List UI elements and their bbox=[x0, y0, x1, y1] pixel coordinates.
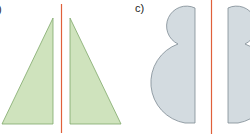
right-half-snowman bbox=[228, 6, 250, 123]
left-triangle bbox=[2, 18, 53, 124]
symmetry-diagram bbox=[0, 0, 250, 134]
right-triangle bbox=[70, 18, 121, 124]
left-half-snowman bbox=[151, 6, 195, 123]
